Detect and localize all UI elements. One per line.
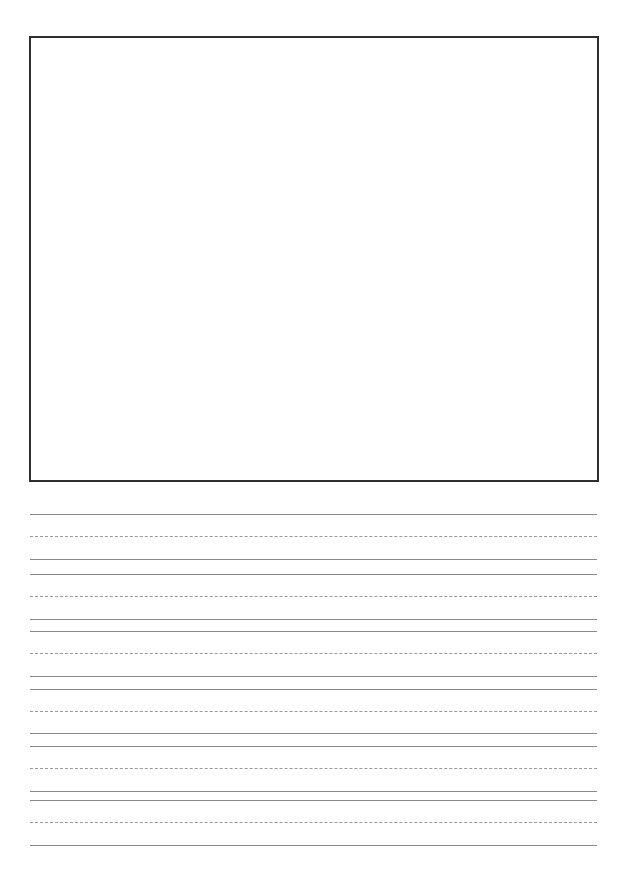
writing-line-solid (30, 845, 597, 846)
writing-line-solid (30, 791, 597, 792)
midline-dashed (30, 653, 597, 654)
midline-dashed (30, 711, 597, 712)
midline-dashed (30, 596, 597, 597)
writing-line-solid (30, 631, 597, 632)
writing-line-solid (30, 746, 597, 747)
midline-dashed (30, 822, 597, 823)
midline-dashed (30, 768, 597, 769)
writing-line-solid (30, 676, 597, 677)
writing-line-solid (30, 689, 597, 690)
writing-line-solid (30, 574, 597, 575)
writing-line-solid (30, 800, 597, 801)
writing-line-solid (30, 619, 597, 620)
writing-line-solid (30, 733, 597, 734)
writing-line-solid (30, 559, 597, 560)
writing-line-solid (30, 514, 597, 515)
drawing-box (29, 36, 599, 482)
midline-dashed (30, 536, 597, 537)
